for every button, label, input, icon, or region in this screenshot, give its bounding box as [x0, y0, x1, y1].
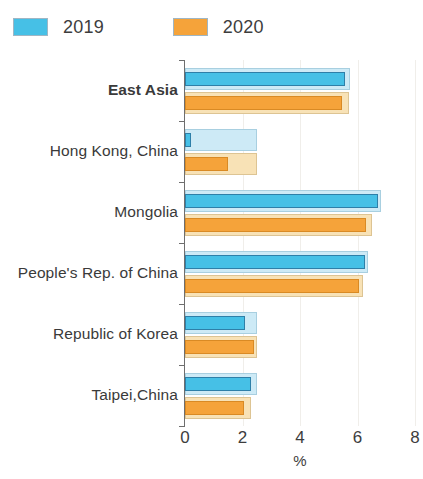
bar-2020[interactable] [185, 92, 415, 114]
bar-2019[interactable] [185, 68, 415, 90]
legend-entry-2020[interactable]: 2020 [173, 17, 264, 38]
bar-2019[interactable] [185, 251, 415, 273]
category-label: People's Rep. of China [2, 264, 178, 282]
bar-group [185, 60, 415, 121]
category-axis-labels: East AsiaHong Kong, ChinaMongoliaPeople'… [0, 60, 178, 426]
bar-value-2019 [185, 255, 365, 269]
bar-group [185, 243, 415, 304]
x-tick-label: 8 [410, 428, 419, 448]
x-tick-label: 2 [238, 428, 247, 448]
x-tick-label: 6 [353, 428, 362, 448]
bar-2020[interactable] [185, 275, 415, 297]
category-label: East Asia [2, 81, 178, 99]
legend-entry-2019[interactable]: 2019 [13, 17, 104, 38]
bar-2019[interactable] [185, 312, 415, 334]
bar-value-2019 [185, 133, 191, 147]
x-axis-ticks: 02468 [185, 426, 415, 452]
chart-legend: 2019 2020 [13, 14, 264, 40]
x-tick-label: 4 [295, 428, 304, 448]
bar-group [185, 182, 415, 243]
bar-value-2019 [185, 72, 345, 86]
category-label: Taipei,China [2, 386, 178, 404]
gridline [415, 60, 416, 426]
plot-area [185, 60, 415, 426]
bar-2019[interactable] [185, 129, 415, 151]
bar-group [185, 365, 415, 426]
bar-2019[interactable] [185, 190, 415, 212]
bar-2020[interactable] [185, 397, 415, 419]
x-axis-title: % [185, 452, 415, 469]
bar-value-2019 [185, 316, 245, 330]
category-label: Hong Kong, China [2, 142, 178, 160]
legend-label-2020: 2020 [223, 17, 264, 38]
category-label: Republic of Korea [2, 325, 178, 343]
bar-2020[interactable] [185, 153, 415, 175]
x-tick-label: 0 [180, 428, 189, 448]
bar-value-2020 [185, 218, 366, 232]
bar-value-2019 [185, 194, 378, 208]
bar-2020[interactable] [185, 214, 415, 236]
legend-swatch-2020 [173, 18, 208, 36]
bar-outer-2019 [185, 129, 257, 151]
legend-swatch-2019 [13, 18, 48, 36]
bar-value-2020 [185, 279, 359, 293]
bar-chart: 2019 2020 East AsiaHong Kong, ChinaMongo… [0, 0, 423, 479]
legend-label-2019: 2019 [63, 17, 104, 38]
bar-2020[interactable] [185, 336, 415, 358]
bar-value-2020 [185, 401, 244, 415]
bar-value-2019 [185, 377, 251, 391]
category-label: Mongolia [2, 203, 178, 221]
bar-value-2020 [185, 157, 228, 171]
bar-value-2020 [185, 96, 342, 110]
bar-group [185, 121, 415, 182]
bar-2019[interactable] [185, 373, 415, 395]
bar-value-2020 [185, 340, 254, 354]
bar-group [185, 304, 415, 365]
